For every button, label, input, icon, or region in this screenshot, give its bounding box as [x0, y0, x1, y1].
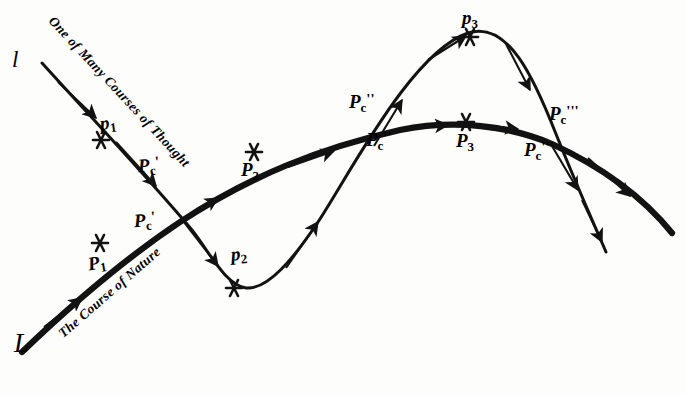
label-nature-p1: P1 — [86, 252, 108, 277]
nature-start-label: L — [14, 330, 29, 357]
label-thought-p3: p3 — [462, 8, 478, 31]
label-nature-pc2: Pc'' — [366, 130, 392, 153]
marker-nature-p2 — [246, 144, 262, 160]
arrow-nature-6 — [588, 158, 630, 196]
arrow-thought-6 — [428, 36, 466, 60]
diagram-canvas: l L One of Many Courses of Thought The C… — [0, 0, 685, 395]
thought-start-label: l — [12, 48, 18, 71]
arrow-thought-4 — [286, 222, 318, 268]
label-thought-pc3: Pc''' — [549, 104, 579, 127]
label-thought-pc2: Pc'' — [349, 92, 375, 115]
label-nature-pc3: Pc''' — [524, 140, 554, 163]
label-thought-p2: p2 — [230, 243, 248, 267]
diagram-svg — [0, 0, 685, 395]
course-of-thought-curve — [42, 31, 606, 288]
course-of-nature-curve — [22, 125, 672, 352]
label-nature-pc1: Pc' — [133, 209, 156, 233]
label-nature-p2: P2 — [241, 160, 259, 183]
arrow-thought-9 — [582, 200, 602, 242]
marker-nature-p1 — [92, 235, 108, 251]
arrow-thought-3 — [184, 222, 218, 266]
arrow-thought-1 — [58, 82, 96, 118]
label-thought-pc1: Pc' — [137, 154, 160, 178]
arrow-nature-2 — [176, 198, 218, 224]
label-nature-p3: P3 — [456, 131, 474, 154]
label-thought-p1: p1 — [99, 112, 118, 137]
